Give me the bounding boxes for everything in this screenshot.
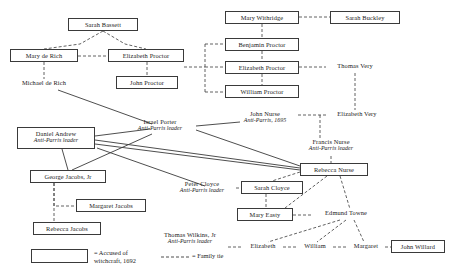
node-label: John Willard xyxy=(396,243,440,250)
node-benjamin-proctor[interactable]: Benjamin Proctor xyxy=(225,38,299,51)
node-label: Elizabeth Proctor xyxy=(230,64,294,71)
node-sarah-buckley[interactable]: Sarah Buckley xyxy=(330,11,400,24)
node-label: Rebecca Nurse xyxy=(305,166,363,173)
node-label: Margaret xyxy=(347,242,385,249)
node-john-nurse[interactable]: John NurseAnti-Parris, 1695 xyxy=(232,110,298,128)
node-sublabel: Anti-Parris leader xyxy=(22,137,90,144)
node-michael-de-rich[interactable]: Michael de Rich xyxy=(10,79,78,90)
node-label: Sarah Cloyce xyxy=(246,184,298,191)
node-label: Thomas Very xyxy=(326,62,384,69)
node-sublabel: Anti-Parris leader xyxy=(168,187,236,194)
node-thomas-wilkins-jr[interactable]: Thomas Wilkins, JrAnti-Parris leader xyxy=(152,231,228,249)
node-daniel-andrew[interactable]: Daniel AndrewAnti-Parris leader xyxy=(17,127,95,149)
node-francis-nurse[interactable]: Francis NurseAnti-Parris leader xyxy=(295,138,367,156)
node-william-towne[interactable]: William xyxy=(297,242,333,253)
node-israel-porter[interactable]: Israel PorterAnti-Parris leader xyxy=(124,118,196,136)
node-label: Israel Porter xyxy=(124,118,196,125)
node-elizabeth-very[interactable]: Elizabeth Very xyxy=(326,110,388,121)
node-sublabel: Anti-Parris, 1695 xyxy=(232,117,298,124)
node-sublabel: Anti-Parris leader xyxy=(152,238,228,245)
node-john-willard[interactable]: John Willard xyxy=(391,240,445,253)
node-label: Margaret Jacobs xyxy=(81,202,141,209)
node-label: Mary de Rich xyxy=(15,52,73,59)
node-margaret-towne[interactable]: Margaret xyxy=(347,242,385,253)
node-label: Daniel Andrew xyxy=(22,130,90,137)
legend-accused-swatch xyxy=(31,249,88,263)
node-george-jacobs-jr[interactable]: George Jacobs, Jr xyxy=(30,170,106,183)
node-elizabeth-towne[interactable]: Elizabeth xyxy=(243,242,283,253)
node-label: Rebecca Jacobs xyxy=(38,225,96,232)
node-margaret-jacobs[interactable]: Margaret Jacobs xyxy=(76,199,146,212)
node-label: Thomas Wilkins, Jr xyxy=(152,231,228,238)
node-label: William Proctor xyxy=(230,88,294,95)
node-label: Mary Withridge xyxy=(230,14,294,21)
node-label: Edmund Towne xyxy=(313,209,379,216)
node-mary-easty[interactable]: Mary Easty xyxy=(237,208,293,221)
node-label: George Jacobs, Jr xyxy=(35,173,101,180)
node-label: Elizabeth Very xyxy=(326,110,388,117)
node-rebecca-nurse[interactable]: Rebecca Nurse xyxy=(300,163,368,176)
node-peter-cloyce[interactable]: Peter CloyceAnti-Parris leader xyxy=(168,180,236,198)
node-elizabeth-proctor-r[interactable]: Elizabeth Proctor xyxy=(225,61,299,74)
node-label: Michael de Rich xyxy=(10,79,78,86)
node-label: John Nurse xyxy=(232,110,298,117)
node-label: William xyxy=(297,242,333,249)
node-label: Francis Nurse xyxy=(295,138,367,145)
node-rebecca-jacobs[interactable]: Rebecca Jacobs xyxy=(33,222,101,235)
node-sarah-cloyce[interactable]: Sarah Cloyce xyxy=(241,181,303,194)
node-sublabel: Anti-Parris leader xyxy=(295,145,367,152)
node-label: Sarah Bassett xyxy=(73,21,133,28)
node-label: Mary Easty xyxy=(242,211,288,218)
node-label: Sarah Buckley xyxy=(335,14,395,21)
legend-accused-label: = Accused of witchcraft, 1692 xyxy=(94,249,160,264)
node-label: John Proctor xyxy=(121,79,173,86)
node-sublabel: Anti-Parris leader xyxy=(124,125,196,132)
node-label: Benjamin Proctor xyxy=(230,41,294,48)
node-mary-de-rich[interactable]: Mary de Rich xyxy=(10,49,78,62)
node-thomas-very[interactable]: Thomas Very xyxy=(326,62,384,73)
legend-family-tie-label: = Family tie xyxy=(192,252,223,260)
node-label: Elizabeth xyxy=(243,242,283,249)
genealogy-diagram-canvas: Sarah BassettMary de RichElizabeth Proct… xyxy=(0,0,449,276)
node-edmund-towne[interactable]: Edmund Towne xyxy=(313,209,379,220)
node-sarah-bassett[interactable]: Sarah Bassett xyxy=(68,18,138,31)
node-john-proctor[interactable]: John Proctor xyxy=(116,76,178,89)
node-elizabeth-proctor-l[interactable]: Elizabeth Proctor xyxy=(108,49,184,62)
node-label: Peter Cloyce xyxy=(168,180,236,187)
node-mary-withridge[interactable]: Mary Withridge xyxy=(225,11,299,24)
node-william-proctor[interactable]: William Proctor xyxy=(225,85,299,98)
legend-family-tie-line xyxy=(161,250,191,264)
node-label: Elizabeth Proctor xyxy=(113,52,179,59)
